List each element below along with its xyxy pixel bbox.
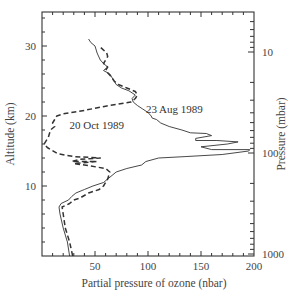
plot-frame <box>42 12 254 256</box>
series-annotation: 23 Aug 1989 <box>146 103 203 115</box>
data-series <box>44 39 250 256</box>
ozone-profile-chart: 50100150200102030101001000Partial pressu… <box>0 0 295 295</box>
series-line-aug-1989 <box>59 39 250 256</box>
y2-tick-label: 1000 <box>262 248 285 260</box>
y2-tick-label: 10 <box>262 46 274 58</box>
series-annotation: 20 Oct 1989 <box>70 119 125 131</box>
plot-border <box>42 12 254 256</box>
x-tick-label: 100 <box>140 260 157 272</box>
y-axis-title: Altitude (km) <box>4 102 17 165</box>
x-tick-label: 50 <box>90 260 102 272</box>
y2-axis-title: Pressure (mbar) <box>275 97 288 170</box>
y-tick-label: 30 <box>25 40 37 52</box>
y-tick-label: 20 <box>25 110 37 122</box>
axis-ticks <box>42 12 254 256</box>
series-line-oct-1989 <box>44 46 137 256</box>
x-axis-title: Partial pressure of ozone (nbar) <box>82 277 227 290</box>
axis-labels: 50100150200102030101001000Partial pressu… <box>4 40 288 290</box>
y-tick-label: 10 <box>25 180 37 192</box>
x-tick-label: 150 <box>193 260 210 272</box>
x-tick-label: 200 <box>246 260 263 272</box>
